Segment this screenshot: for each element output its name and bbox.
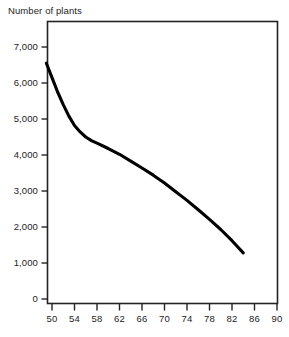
y-tick-label: 7,000 [14,41,38,52]
chart-figure: Number of plants 0 1,000 2,000 3,000 4,0… [0,0,289,337]
y-axis-tick-labels: 0 1,000 2,000 3,000 4,000 5,000 6,000 7,… [14,41,38,304]
x-axis-tick-labels: 50 54 58 62 66 70 74 78 82 86 90 [47,313,283,324]
x-tick-label: 54 [69,313,80,324]
y-tick-label: 3,000 [14,185,38,196]
x-tick-label: 62 [114,313,125,324]
x-tick-label: 78 [204,313,215,324]
x-tick-label: 90 [272,313,283,324]
y-tick-label: 1,000 [14,257,38,268]
y-tick-label: 0 [33,293,38,304]
line-chart-plot: 0 1,000 2,000 3,000 4,000 5,000 6,000 7,… [0,0,289,337]
x-tick-label: 50 [47,313,58,324]
x-tick-label: 58 [92,313,103,324]
y-tick-label: 4,000 [14,149,38,160]
y-axis-ticks [42,47,48,299]
x-tick-label: 82 [227,313,238,324]
x-tick-label: 86 [249,313,260,324]
y-tick-label: 5,000 [14,113,38,124]
y-tick-label: 2,000 [14,221,38,232]
x-tick-label: 74 [182,313,193,324]
y-tick-label: 6,000 [14,77,38,88]
x-tick-label: 66 [137,313,148,324]
x-axis-ticks [52,304,277,311]
x-tick-label: 70 [159,313,170,324]
plot-background [48,22,278,304]
